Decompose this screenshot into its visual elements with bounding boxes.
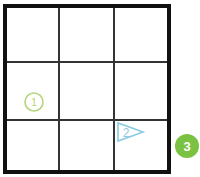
marker-1: 1 <box>25 93 43 111</box>
marker-2-label: 2 <box>123 126 130 140</box>
marker-3: 3 <box>175 134 199 158</box>
markers-layer: 1 2 3 <box>0 0 200 177</box>
marker-3-label: 3 <box>183 139 190 154</box>
marker-1-label: 1 <box>31 96 37 108</box>
marker-2: 2 <box>118 123 143 141</box>
